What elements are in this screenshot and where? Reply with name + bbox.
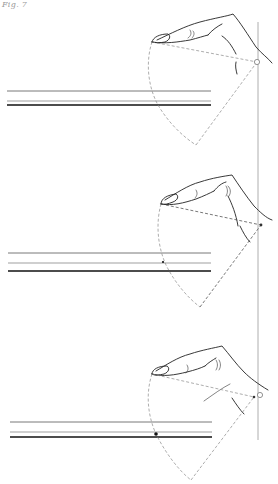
figure-drawing bbox=[0, 0, 278, 484]
radius-line bbox=[152, 42, 257, 62]
hand-drawing bbox=[152, 14, 272, 74]
pivot-point bbox=[260, 224, 263, 227]
hand-drawing bbox=[161, 175, 272, 242]
construction-lines bbox=[148, 374, 254, 480]
swing-arc bbox=[158, 204, 200, 307]
chord-line bbox=[191, 397, 254, 480]
construction-lines bbox=[148, 42, 257, 145]
panel-1 bbox=[7, 14, 272, 145]
chord-line bbox=[200, 225, 261, 307]
string-lines bbox=[10, 422, 212, 437]
swing-arc bbox=[148, 374, 191, 480]
swing-arc bbox=[148, 42, 196, 145]
panel-3 bbox=[10, 346, 268, 480]
hand-drawing bbox=[152, 346, 268, 414]
radius-line bbox=[161, 204, 261, 225]
construction-lines bbox=[158, 204, 261, 307]
string-lines bbox=[7, 91, 211, 105]
pivot-point bbox=[254, 59, 259, 64]
chord-line bbox=[196, 62, 257, 145]
radius-line bbox=[152, 374, 254, 397]
panel-2 bbox=[8, 175, 272, 307]
contact-mark bbox=[154, 432, 158, 436]
arc-intersection-mark bbox=[162, 261, 164, 263]
string-lines bbox=[8, 253, 211, 271]
pivot-point bbox=[257, 392, 262, 397]
pivot-dot bbox=[253, 396, 256, 399]
